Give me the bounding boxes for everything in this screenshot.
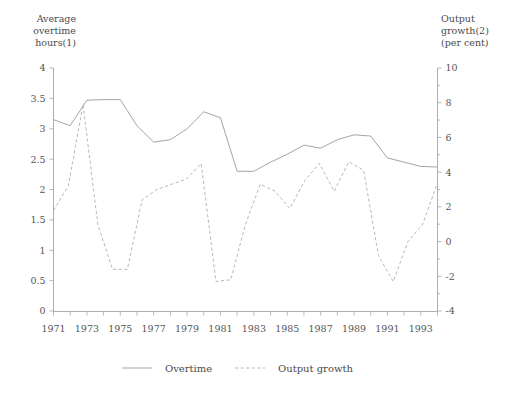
- x-tick-label: 1977: [142, 323, 166, 334]
- chart-legend: Overtime Output growth: [122, 363, 353, 374]
- left-tick-label: 2: [39, 184, 45, 195]
- left-axis-title: Average overtime hours(1): [33, 13, 76, 48]
- left-tick-label: 3.5: [30, 93, 45, 104]
- right-axis-ticks: -4-20246810: [438, 62, 458, 316]
- x-tick-label: 1987: [309, 323, 333, 334]
- left-tick-label: 0.5: [30, 275, 45, 286]
- axes: [54, 68, 438, 312]
- chart-container: Average overtime hours(1) Output growth(…: [0, 0, 505, 399]
- series-group: [54, 100, 438, 282]
- left-axis-title-line-2: overtime: [33, 25, 76, 36]
- right-axis-title-line-1: Output: [441, 13, 475, 24]
- right-tick-label: 10: [446, 62, 458, 73]
- series-output-growth-line: [54, 104, 438, 281]
- right-tick-label: 0: [446, 236, 452, 247]
- left-axis-ticks: 00.511.522.533.54: [30, 62, 53, 316]
- x-tick-label: 1971: [41, 323, 65, 334]
- x-tick-label: 1993: [409, 323, 433, 334]
- left-tick-label: 2.5: [30, 154, 45, 165]
- left-tick-label: 3: [39, 123, 45, 134]
- series-overtime-line: [54, 100, 438, 172]
- left-tick-label: 1.5: [30, 214, 45, 225]
- x-tick-label: 1981: [208, 323, 232, 334]
- left-axis-title-line-1: Average: [36, 13, 77, 24]
- line-chart: Average overtime hours(1) Output growth(…: [0, 0, 505, 399]
- x-tick-label: 1973: [75, 323, 99, 334]
- left-tick-label: 0: [39, 305, 45, 316]
- x-tick-label: 1991: [375, 323, 399, 334]
- x-axis-tick-labels: 1971197319751977197919811983198519871989…: [41, 323, 432, 334]
- right-tick-label: 6: [446, 132, 452, 143]
- right-tick-label: 8: [446, 97, 452, 108]
- right-axis-title: Output growth(2) (per cent): [441, 13, 489, 48]
- left-tick-label: 1: [39, 245, 45, 256]
- x-tick-label: 1975: [108, 323, 132, 334]
- left-axis-title-line-3: hours(1): [35, 37, 76, 48]
- x-tick-label: 1985: [275, 323, 299, 334]
- left-tick-label: 4: [39, 62, 45, 73]
- right-tick-label: 2: [446, 201, 452, 212]
- right-tick-label: -2: [446, 271, 455, 282]
- right-axis-title-line-2: growth(2): [441, 25, 489, 36]
- x-tick-label: 1983: [242, 323, 266, 334]
- x-tick-label: 1979: [175, 323, 199, 334]
- right-tick-label: -4: [446, 305, 455, 316]
- legend-label-output-growth: Output growth: [278, 363, 353, 374]
- right-axis-title-line-3: (per cent): [441, 37, 489, 48]
- legend-label-overtime: Overtime: [165, 363, 212, 374]
- x-tick-label: 1989: [342, 323, 366, 334]
- right-tick-label: 4: [446, 167, 452, 178]
